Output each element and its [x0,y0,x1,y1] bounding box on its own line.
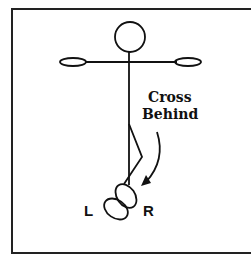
right-foot-label: R [143,202,154,219]
crossing-leg [124,124,142,184]
cross-behind-arrow-icon [146,132,160,182]
left-foot-icon [100,194,132,224]
left-hand-icon [60,58,86,66]
caption-line-1: Cross [148,89,192,105]
head-icon [115,22,145,52]
stick-figure-diagram: Cross Behind L R [0,0,251,257]
left-foot-label: L [84,202,93,219]
caption-line-2: Behind [142,106,198,122]
right-hand-icon [175,58,201,66]
